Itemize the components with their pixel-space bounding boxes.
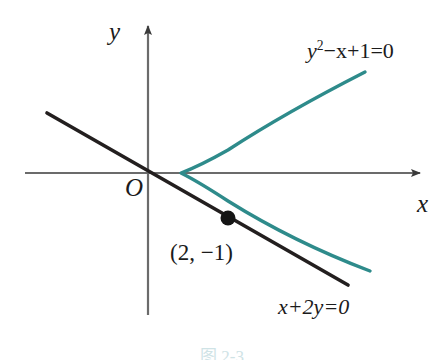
math-figure: y x O y2−x+1=0 x+2y=0 (2, −1) 图 2-3	[0, 0, 444, 360]
parabola-eq-rest: −x+1=0	[324, 38, 394, 63]
figure-caption: 图 2-3	[0, 342, 444, 360]
x-axis-label: x	[417, 191, 428, 216]
y-axis-label: y	[109, 19, 120, 44]
tangency-point-marker	[221, 211, 236, 226]
parabola-equation-label: y2−x+1=0	[307, 40, 394, 62]
parabola-eq-base: y	[307, 38, 317, 63]
origin-label: O	[125, 175, 143, 200]
line-equation-label: x+2y=0	[278, 296, 349, 318]
point-coordinates-label: (2, −1)	[170, 241, 233, 264]
parabola-eq-exponent: 2	[317, 38, 324, 53]
